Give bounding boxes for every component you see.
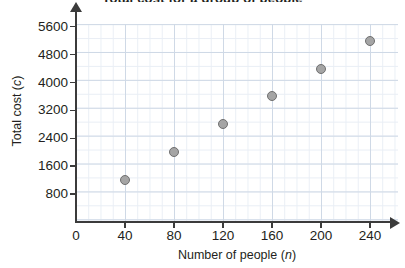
x-tick-label: 200 [294, 229, 348, 243]
x-axis-variable: n [285, 248, 292, 262]
x-tick-label: 240 [343, 229, 397, 243]
data-point [365, 36, 375, 46]
data-point [316, 64, 326, 74]
y-tick-label: 4000 [24, 76, 68, 90]
y-axis-title-text: Total cost ( [10, 86, 24, 146]
x-axis-title-text: Number of people ( [178, 248, 285, 262]
x-axis-line [75, 221, 392, 223]
y-axis-variable: c [10, 80, 24, 86]
y-tick-label: 5600 [24, 20, 68, 34]
y-tick-mark [70, 110, 76, 112]
x-tick-label: 0 [49, 229, 103, 243]
y-tick-mark [70, 82, 76, 84]
x-axis-title: Number of people (n) [76, 248, 398, 262]
x-axis-title-close: ) [292, 248, 296, 262]
y-tick-label: 3200 [24, 103, 68, 117]
y-axis-title: Total cost (c) [10, 50, 24, 172]
y-tick-label: 4800 [24, 48, 68, 62]
plot-area [76, 24, 398, 222]
chart-title: Total cost for a group of people [0, 0, 405, 2]
y-tick-mark [70, 138, 76, 140]
x-tick-label: 120 [196, 229, 250, 243]
major-gridlines [76, 24, 398, 222]
x-tick-label: 40 [98, 229, 152, 243]
x-axis-arrow-icon [390, 217, 400, 229]
y-tick-label: 1600 [24, 159, 68, 173]
y-tick-mark [70, 165, 76, 167]
y-tick-mark [70, 54, 76, 56]
x-tick-label: 80 [147, 229, 201, 243]
scatter-chart: Total cost for a group of people 8001600… [0, 0, 405, 268]
y-axis-arrow-icon [70, 2, 82, 12]
y-tick-mark [70, 26, 76, 28]
y-tick-label: 2400 [24, 131, 68, 145]
y-tick-mark [70, 193, 76, 195]
y-tick-label: 800 [24, 187, 68, 201]
y-axis-line [75, 10, 77, 223]
y-axis-title-close: ) [10, 76, 24, 80]
x-tick-label: 160 [245, 229, 299, 243]
